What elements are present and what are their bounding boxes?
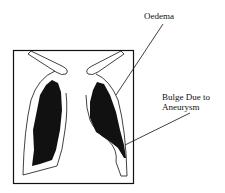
- aneurysm-leader-line: [125, 113, 190, 145]
- left-lung-shadow: [32, 80, 62, 166]
- bulge-label-line1: Bulge Due to: [162, 92, 210, 102]
- bulge-label-line2: Aneurysm: [162, 102, 200, 112]
- oedema-label: Oedema: [144, 11, 174, 21]
- left-clavicle: [28, 51, 67, 75]
- oedema-leader-line: [116, 24, 163, 95]
- right-clavicle: [87, 51, 124, 75]
- right-lung-shadow: [90, 82, 126, 158]
